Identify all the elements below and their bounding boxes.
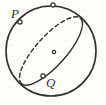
point-label-p: P (11, 7, 19, 20)
point-label-q: Q (46, 76, 55, 89)
sphere-center-dot (52, 50, 55, 53)
point-marker-q (41, 74, 45, 78)
point-marker-top (51, 3, 55, 7)
sphere-diagram: P Q (0, 0, 106, 105)
